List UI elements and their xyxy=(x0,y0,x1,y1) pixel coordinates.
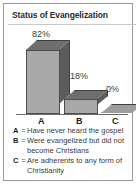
legend-item-c: C = Are adherents to any form of Christi… xyxy=(13,156,133,176)
legend-text-b: Were evangelized but did not become Chri… xyxy=(27,136,133,156)
legend-key-a: A xyxy=(13,126,20,136)
legend-equals-b: = xyxy=(20,136,27,146)
legend-text-c: Are adherents to any form of Christianit… xyxy=(27,156,133,176)
chart-title: Status of Evangelization xyxy=(12,10,108,20)
legend-key-c: C xyxy=(13,156,20,166)
legend-key-b: B xyxy=(13,136,20,146)
axis-baseline xyxy=(16,114,128,115)
legend-item-a: A = Have never heard the gospel xyxy=(13,126,133,136)
legend-text-a: Have never heard the gospel xyxy=(27,126,133,136)
legend-equals-c: = xyxy=(20,156,27,166)
legend-equals-a: = xyxy=(20,126,27,136)
chart-legend: A = Have never heard the gospel B = Were… xyxy=(13,126,133,176)
category-label-a: A xyxy=(38,116,45,126)
value-label-b: 18% xyxy=(70,71,88,81)
category-label-c: C xyxy=(112,116,119,126)
chart-frame: Status of Evangelization 82% 18% 0% A B xyxy=(3,3,133,181)
evangelization-chart-figure: Status of Evangelization 82% 18% 0% A B xyxy=(0,0,136,184)
value-label-a: 82% xyxy=(32,29,50,39)
bar-a-front-face xyxy=(26,50,60,114)
plot-area: 82% 18% 0% A B C xyxy=(8,26,136,120)
category-label-b: B xyxy=(76,116,83,126)
bar-b-front-face xyxy=(64,99,98,114)
legend-item-b: B = Were evangelized but did not become … xyxy=(13,136,133,156)
title-divider xyxy=(8,24,136,25)
